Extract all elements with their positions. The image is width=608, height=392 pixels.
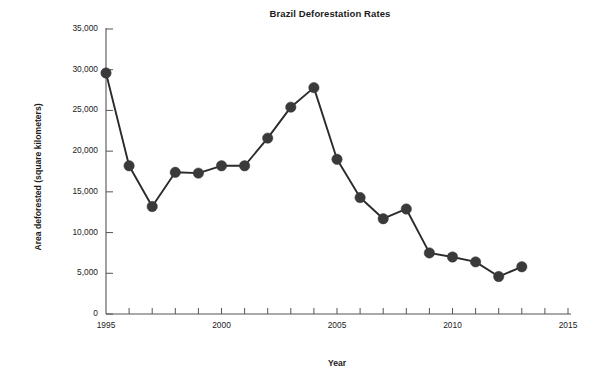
data-point-2001 [239, 161, 249, 171]
x-tick-label: 1995 [82, 320, 130, 330]
series-line [106, 73, 522, 277]
data-point-2008 [401, 204, 411, 214]
x-axis-title: Year [106, 358, 568, 368]
data-series-line [106, 73, 522, 277]
y-tick-label: 25,000 [52, 105, 98, 113]
y-tick-label: 5,000 [52, 268, 98, 276]
y-tick-label: 20,000 [52, 146, 98, 154]
data-point-2006 [355, 192, 365, 202]
data-point-2005 [332, 154, 342, 164]
data-point-2011 [470, 257, 480, 267]
data-point-1996 [124, 161, 134, 171]
data-point-2009 [424, 248, 434, 258]
chart-title: Brazil Deforestation Rates [0, 8, 608, 19]
data-point-2012 [494, 271, 504, 281]
y-tick-label: 10,000 [52, 228, 98, 236]
y-axis-title: Area deforested (square kilometers) [33, 47, 43, 307]
chart-title-text: Brazil Deforestation Rates [270, 8, 391, 19]
x-tick-label: 2005 [313, 320, 361, 330]
data-point-1997 [147, 201, 157, 211]
data-point-markers [101, 68, 527, 282]
data-point-1999 [193, 168, 203, 178]
x-tick-label: 2010 [429, 320, 477, 330]
data-point-1995 [101, 68, 111, 78]
plot-area [0, 0, 608, 392]
y-tick-label: 0 [52, 309, 98, 317]
y-tick-label: 30,000 [52, 65, 98, 73]
data-point-2002 [263, 133, 273, 143]
x-tick-label: 2000 [198, 320, 246, 330]
chart-figure: Brazil Deforestation Rates Area deforest… [0, 0, 608, 392]
data-point-2004 [309, 82, 319, 92]
data-point-2003 [286, 102, 296, 112]
data-point-2000 [216, 161, 226, 171]
data-point-2010 [447, 252, 457, 262]
data-point-2007 [378, 214, 388, 224]
y-tick-label: 15,000 [52, 187, 98, 195]
x-tick-label: 2015 [544, 320, 592, 330]
data-point-2013 [517, 262, 527, 272]
y-tick-label: 35,000 [52, 24, 98, 32]
data-point-1998 [170, 167, 180, 177]
